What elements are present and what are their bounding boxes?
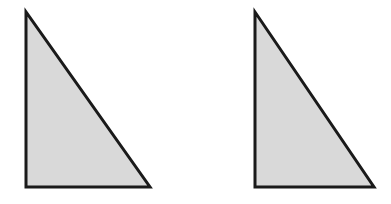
figure-canvas (0, 0, 391, 204)
triangles-figure (0, 0, 391, 204)
